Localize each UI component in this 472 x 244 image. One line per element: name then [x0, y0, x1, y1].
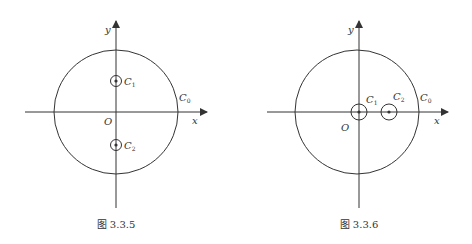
- x-axis-label: x: [434, 115, 440, 126]
- center-dot-c2: [114, 143, 117, 146]
- figure-3-3-6: y x O C1 C2 C0 图 3.3.6: [267, 21, 448, 230]
- origin-label: O: [104, 116, 112, 127]
- figure-caption: 图 3.3.6: [340, 219, 379, 230]
- x-axis-label: x: [192, 115, 198, 126]
- c1-label: C1: [366, 94, 377, 106]
- origin-label: O: [341, 122, 349, 133]
- figure-caption: 图 3.3.5: [97, 219, 136, 230]
- center-dot-c1: [357, 110, 360, 113]
- c0-label: C0: [420, 92, 432, 104]
- c1-label: C1: [124, 76, 135, 88]
- c0-label: C0: [179, 92, 191, 104]
- y-axis-label: y: [347, 24, 354, 35]
- center-dot-c1: [114, 79, 117, 82]
- figure-3-3-5: y x O C1 C2 C0 图 3.3.5: [25, 21, 207, 230]
- c2-label: C2: [124, 140, 136, 152]
- center-dot-c2: [387, 110, 390, 113]
- c2-label: C2: [393, 91, 405, 103]
- y-axis-label: y: [104, 24, 111, 35]
